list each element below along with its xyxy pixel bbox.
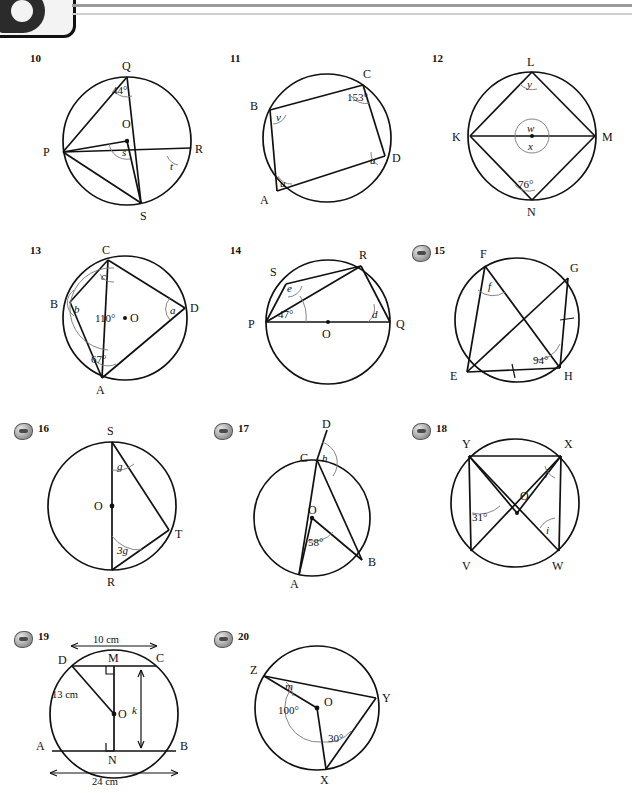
figure-19: 19 D M C O A N B 10 cm 13 cm k 24 cm [14, 626, 214, 791]
figure-10-angle-s: s [122, 146, 126, 158]
figure-20-angle-100: 100° [278, 704, 299, 716]
figure-16-angle-g: g [117, 460, 123, 472]
figure-15-globe-icon [412, 245, 431, 262]
figure-13-angle-a: a [170, 304, 176, 316]
figure-18-label-X: X [564, 437, 573, 451]
figure-14: 14 R S P O Q e 47° d [230, 240, 426, 400]
figure-12-label-M: M [602, 130, 613, 144]
figure-11-label-B: B [250, 99, 258, 113]
figure-17-label-D: D [322, 417, 331, 431]
figure-16-globe-icon [14, 423, 33, 440]
figure-19-dim-k: k [132, 704, 138, 716]
figure-19-dim-10cm: 10 cm [93, 634, 119, 645]
figure-18-label-V: V [462, 559, 471, 573]
figure-12-angle-y: y [526, 78, 532, 90]
figure-11-label-C: C [363, 67, 371, 81]
figure-20-globe-icon [214, 631, 233, 648]
figure-14-label-Q: Q [396, 317, 405, 331]
figure-14-label-S: S [270, 265, 277, 279]
figure-11-number: 11 [230, 52, 240, 64]
figure-20-label-X: X [320, 773, 329, 787]
figure-14-angle-47: 47° [278, 308, 293, 320]
figure-12: 12 L K M N y w x 76° [432, 48, 628, 223]
figure-12-number: 12 [432, 52, 443, 64]
figure-15-label-E: E [450, 369, 457, 383]
figure-12-angle-76: 76° [518, 178, 533, 190]
figure-15-label-G: G [570, 261, 579, 275]
figure-18-angle-31: 31° [472, 511, 487, 523]
figure-20-number: 20 [238, 630, 249, 642]
figure-20-angle-30: 30° [328, 732, 343, 744]
figure-17-label-A: A [290, 577, 299, 591]
figure-14-angle-d: d [372, 308, 378, 320]
figure-11-angle-u-D: u [370, 154, 376, 166]
figure-19-dim-24cm: 24 cm [92, 776, 118, 787]
figure-18-diagram: Y X O V W j 31° i [412, 418, 618, 588]
figure-20-angle-m: m [285, 680, 293, 692]
figure-19-number: 19 [38, 630, 49, 642]
figure-20-label-Z: Z [250, 663, 257, 677]
figure-10-label-Q: Q [122, 59, 131, 73]
figure-13-label-D: D [190, 301, 199, 315]
page-tab-glyph-icon [0, 0, 45, 33]
figure-11-angle-u-A: u [280, 177, 286, 189]
figure-15-angle-94: 94° [533, 354, 548, 366]
figure-13-label-C: C [102, 243, 110, 257]
figure-13-label-A: A [96, 383, 105, 397]
figure-17-label-C: C [300, 451, 308, 465]
figure-14-label-R: R [359, 248, 367, 262]
figure-12-label-L: L [527, 55, 534, 69]
figure-18-angle-i: i [546, 524, 549, 536]
figure-11: 11 C B D A 153° v u u [230, 48, 420, 223]
figure-16-label-S: S [107, 424, 114, 438]
figure-12-angle-x: x [527, 140, 533, 152]
figure-16-label-T: T [175, 527, 183, 541]
figure-12-angle-w: w [527, 122, 535, 134]
figure-10-label-R: R [195, 142, 203, 156]
figure-10-number: 10 [30, 52, 41, 64]
figure-17-angle-58: 58° [308, 536, 323, 548]
figure-19-diagram: D M C O A N B 10 cm 13 cm k 24 cm [14, 626, 214, 791]
figure-12-label-K: K [452, 130, 461, 144]
figure-15-diagram: F G E H f 94° [412, 240, 612, 400]
header-rule-secondary [72, 13, 632, 15]
figure-14-label-P: P [248, 317, 255, 331]
figure-13-diagram: C B O D A c b 110° a 67° [30, 240, 220, 400]
figure-17-diagram: D C O A B h 58° [214, 418, 414, 588]
figure-16-label-O: O [94, 499, 103, 513]
figure-20-label-O: O [324, 695, 333, 709]
figure-10-angle-t: t [170, 160, 174, 172]
figure-11-label-D: D [392, 151, 401, 165]
figure-19-label-A: A [36, 739, 45, 753]
figure-18-globe-icon [412, 423, 431, 440]
figure-19-label-C: C [156, 651, 164, 665]
figure-15-label-H: H [564, 369, 573, 383]
figure-16-angle-3g: 3g [116, 544, 129, 556]
figure-14-label-O: O [322, 327, 331, 341]
figure-19-label-O: O [118, 707, 127, 721]
figure-12-label-N: N [527, 205, 536, 219]
figure-18-angle-j: j [543, 466, 548, 478]
figure-18: 18 Y X O V W j 31° i [412, 418, 618, 588]
figure-15: 15 F G E H f 94° [412, 240, 612, 400]
figure-17-label-B: B [368, 555, 376, 569]
figure-15-angle-f: f [488, 280, 493, 292]
figure-17-label-O: O [308, 503, 317, 517]
figure-11-diagram: C B D A 153° v u u [230, 48, 420, 223]
figure-17-angle-h: h [322, 452, 328, 464]
figure-19-label-M: M [108, 651, 119, 665]
figure-12-diagram: L K M N y w x 76° [432, 48, 628, 223]
figure-16-number: 16 [38, 422, 49, 434]
figure-14-number: 14 [230, 244, 241, 256]
figure-11-angle-v: v [276, 111, 281, 123]
figure-17: 17 D C O A B h 58° [214, 418, 414, 588]
figure-18-number: 18 [436, 422, 447, 434]
figure-13: 13 C B O D A c b 110° a 67° [30, 240, 220, 400]
figure-11-angle-153: 153° [347, 91, 368, 103]
figure-13-angle-67: 67° [91, 353, 106, 365]
figure-13-angle-110: 110° [95, 312, 116, 324]
figure-10-label-S: S [140, 209, 147, 223]
figure-19-label-B: B [180, 739, 188, 753]
figure-10-label-O: O [122, 117, 131, 131]
figure-14-angle-e: e [287, 282, 292, 294]
